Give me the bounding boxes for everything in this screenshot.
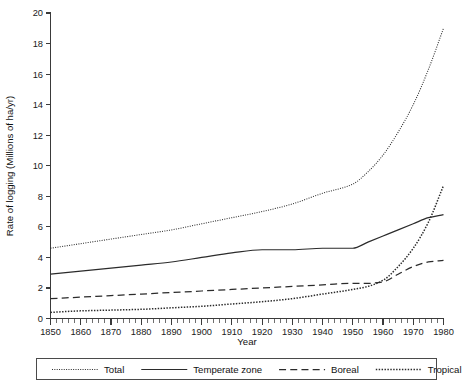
x-tick-label: 1870	[101, 327, 122, 337]
series-temperate-zone	[51, 215, 444, 275]
y-axis-title: Rate of logging (Millions of ha/yr)	[4, 96, 15, 236]
x-tick-label: 1880	[131, 327, 152, 337]
x-tick-label: 1940	[312, 327, 333, 337]
y-tick-label: 20	[33, 8, 43, 18]
y-tick-label: 16	[33, 70, 43, 80]
y-axis: 02468101214161820	[33, 8, 51, 324]
x-tick-label: 1960	[373, 327, 394, 337]
x-tick-label: 1900	[191, 327, 212, 337]
series-tropical	[51, 186, 444, 313]
chart-figure: 02468101214161820 1850186018701880189019…	[0, 0, 463, 386]
x-tick-label: 1950	[342, 327, 363, 337]
y-tick-label: 14	[33, 100, 43, 110]
y-tick-label: 18	[33, 39, 43, 49]
series-group	[51, 28, 444, 312]
y-tick-label: 10	[33, 161, 43, 171]
chart-svg: 02468101214161820 1850186018701880189019…	[0, 0, 463, 386]
legend: TotalTemperate zoneBorealTropical	[37, 359, 462, 380]
y-tick-group	[46, 13, 51, 319]
x-minor-tick-group	[57, 319, 438, 323]
x-tick-label: 1930	[282, 327, 303, 337]
legend-label-tropical: Tropical	[428, 364, 462, 375]
x-tick-label: 1850	[40, 327, 61, 337]
y-tick-label: 6	[38, 222, 43, 232]
x-axis: 1850186018701880189019001910192019301940…	[40, 319, 454, 338]
y-tick-label: 2	[38, 283, 43, 293]
legend-label-boreal: Boreal	[331, 364, 359, 375]
x-tick-label: 1980	[433, 327, 454, 337]
x-axis-title: Year	[237, 336, 257, 347]
legend-label-temperate-zone: Temperate zone	[193, 364, 262, 375]
x-tick-label: 1860	[70, 327, 91, 337]
series-total	[51, 28, 444, 248]
y-tick-label: 12	[33, 131, 43, 141]
y-tick-label: 0	[38, 314, 43, 324]
y-tick-label: 4	[38, 253, 43, 263]
x-tick-label: 1890	[161, 327, 182, 337]
legend-items-group: TotalTemperate zoneBorealTropical	[52, 364, 462, 375]
x-tick-group	[51, 319, 444, 325]
legend-label-total: Total	[104, 364, 124, 375]
y-ticklabel-group: 02468101214161820	[33, 8, 43, 324]
x-tick-label: 1970	[403, 327, 424, 337]
y-tick-label: 8	[38, 192, 43, 202]
